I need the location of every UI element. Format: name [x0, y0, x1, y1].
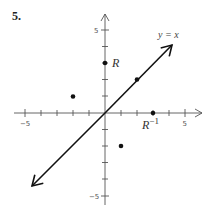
- point-2-2: [135, 77, 140, 82]
- x-tick-label-5: 5: [183, 120, 187, 128]
- line-y-equals-x-lower: [32, 113, 105, 186]
- y-tick-label-neg5: −5: [89, 193, 99, 201]
- y-tick-label-5: 5: [94, 27, 98, 35]
- coordinate-plot: −5 5 5 −5 y = x R R−1: [0, 0, 208, 210]
- point-R-label: R: [111, 56, 120, 70]
- point-R: [103, 61, 108, 66]
- point-1-neg2: [119, 144, 124, 149]
- point-R-inverse-label: R−1: [141, 116, 159, 132]
- x-tick-label-neg5: −5: [20, 120, 30, 128]
- point-R-inverse: [151, 111, 156, 116]
- point-R-inverse-sup: −1: [149, 116, 159, 126]
- line-label: y = x: [157, 29, 179, 40]
- point-neg2-1: [71, 94, 76, 99]
